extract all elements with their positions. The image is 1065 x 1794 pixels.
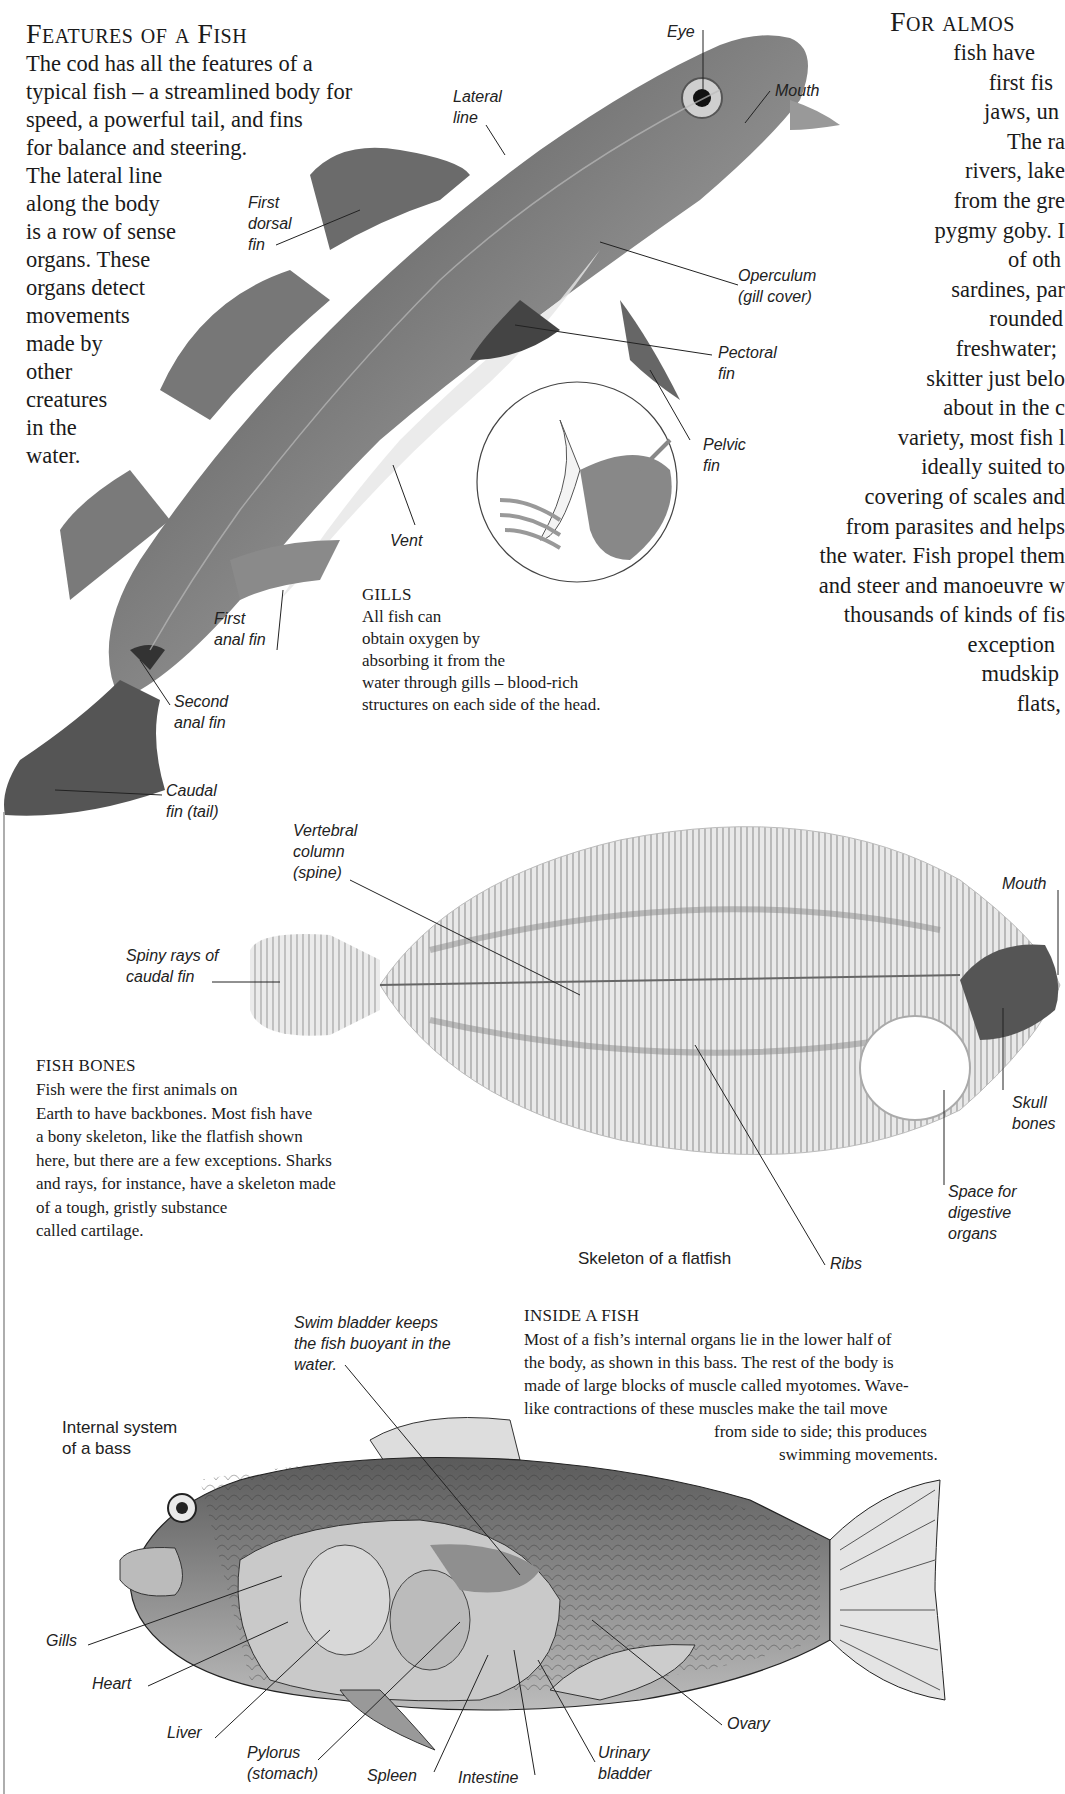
label-first-anal-fin: First anal fin <box>214 608 266 650</box>
intro-right-line: about in the c <box>625 393 1065 423</box>
label-vertebral-column: Vertebral column (spine) <box>293 820 357 883</box>
features-line: other <box>26 358 352 386</box>
intro-right-line: jaws, un <box>625 97 1065 127</box>
gills-heading: Gills <box>362 584 412 606</box>
label-lateral-line: Lateral line <box>453 86 502 128</box>
intro-right-line: covering of scales and <box>625 482 1065 512</box>
features-line: creatures <box>26 386 352 414</box>
label-pylorus: Pylorus (stomach) <box>247 1742 318 1784</box>
label-urinary-bladder: Urinary bladder <box>598 1742 651 1784</box>
inside-fish-line: like contractions of these muscles make … <box>524 1397 938 1420</box>
label-liver: Liver <box>167 1722 202 1743</box>
fish-bones-line: Fish were the first animals on <box>36 1078 336 1102</box>
features-line: water. <box>26 442 352 470</box>
label-gills: Gills <box>46 1630 77 1651</box>
gills-line: water through gills – blood-rich <box>362 672 600 694</box>
bass-illustration <box>120 1418 945 1751</box>
label-vent: Vent <box>390 530 422 551</box>
flatfish-skeleton-illustration <box>250 827 1060 1155</box>
label-spiny-rays: Spiny rays of caudal fin <box>126 945 218 987</box>
fish-bones-line: a bony skeleton, like the flatfish shown <box>36 1125 336 1149</box>
fish-bones-heading: Fish Bones <box>36 1055 136 1077</box>
fish-bones-line: Earth to have backbones. Most fish have <box>36 1102 336 1126</box>
label-skull-bones: Skull bones <box>1012 1092 1056 1134</box>
features-intro: The cod has all the features of a typica… <box>26 50 352 470</box>
label-second-anal-fin: Second anal fin <box>174 691 228 733</box>
intro-right-line: pygmy goby. I <box>625 216 1065 246</box>
features-line: in the <box>26 414 352 442</box>
gills-line: obtain oxygen by <box>362 628 600 650</box>
intro-right-heading: For almos <box>890 8 1015 36</box>
fish-bones-line: of a tough, gristly substance <box>36 1196 336 1220</box>
intro-right-line: the water. Fish propel them <box>625 541 1065 571</box>
features-line: along the body <box>26 190 352 218</box>
flatfish-caption: Skeleton of a flatfish <box>578 1248 731 1269</box>
features-line: organs. These <box>26 246 352 274</box>
inside-fish-heading: Inside a Fish <box>524 1305 639 1327</box>
intro-right-line: rounded <box>625 304 1065 334</box>
intro-right-line: ideally suited to <box>625 452 1065 482</box>
label-digestive-space: Space for digestive organs <box>948 1181 1016 1244</box>
label-caudal-fin: Caudal fin (tail) <box>166 780 218 822</box>
label-flatfish-mouth: Mouth <box>1002 873 1046 894</box>
features-line: movements <box>26 302 352 330</box>
inside-fish-line: from side to side; this produces <box>524 1420 938 1443</box>
intro-right-line: first fis <box>625 68 1065 98</box>
intro-right-line: freshwater; <box>625 334 1065 364</box>
intro-right-line: sardines, par <box>625 275 1065 305</box>
features-line: The cod has all the features of a <box>26 50 352 78</box>
fish-bones-line: called cartilage. <box>36 1219 336 1243</box>
intro-right-line: from the gre <box>625 186 1065 216</box>
intro-right-line: flats, <box>625 689 1065 719</box>
inside-fish-line: Most of a fish’s internal organs lie in … <box>524 1328 938 1351</box>
features-line: is a row of sense <box>26 218 352 246</box>
intro-right-line: rivers, lake <box>625 156 1065 186</box>
features-heading: Features of a Fish <box>26 20 247 48</box>
intro-right-line: mudskip <box>625 659 1065 689</box>
fish-bones-body: Fish were the first animals on Earth to … <box>36 1078 336 1243</box>
label-ribs: Ribs <box>830 1253 862 1274</box>
features-line: speed, a powerful tail, and fins <box>26 106 352 134</box>
features-line: organs detect <box>26 274 352 302</box>
intro-right-body: fish have first fis jaws, un The ra rive… <box>625 38 1065 719</box>
intro-right-line: skitter just belo <box>625 364 1065 394</box>
intro-right-line: and steer and manoeuvre w <box>625 571 1065 601</box>
intro-right-line: variety, most fish l <box>625 423 1065 453</box>
intro-right-line: of oth <box>625 245 1065 275</box>
gills-line: structures on each side of the head. <box>362 694 600 716</box>
intro-right-line: thousands of kinds of fis <box>625 600 1065 630</box>
inside-fish-line: made of large blocks of muscle called my… <box>524 1374 938 1397</box>
gills-line: All fish can <box>362 606 600 628</box>
gills-body: All fish can obtain oxygen by absorbing … <box>362 606 600 716</box>
fish-bones-line: and rays, for instance, have a skeleton … <box>36 1172 336 1196</box>
label-heart: Heart <box>92 1673 131 1694</box>
inside-fish-body: Most of a fish’s internal organs lie in … <box>524 1328 938 1466</box>
intro-right-line: exception <box>625 630 1065 660</box>
intro-right-line: The ra <box>625 127 1065 157</box>
label-ovary: Ovary <box>727 1713 770 1734</box>
inside-fish-line: the body, as shown in this bass. The res… <box>524 1351 938 1374</box>
features-line: The lateral line <box>26 162 352 190</box>
bass-caption: Internal system of a bass <box>62 1417 177 1459</box>
inside-fish-line: swimming movements. <box>524 1443 938 1466</box>
intro-right-line: from parasites and helps <box>625 512 1065 542</box>
fish-bones-line: here, but there are a few exceptions. Sh… <box>36 1149 336 1173</box>
features-line: made by <box>26 330 352 358</box>
label-spleen: Spleen <box>367 1765 417 1786</box>
label-first-dorsal-fin: First dorsal fin <box>248 192 292 255</box>
features-line: typical fish – a streamlined body for <box>26 78 352 106</box>
label-intestine: Intestine <box>458 1767 518 1788</box>
label-swim-bladder: Swim bladder keeps the fish buoyant in t… <box>294 1312 451 1375</box>
intro-right-line: fish have <box>625 38 1065 68</box>
features-line: for balance and steering. <box>26 134 352 162</box>
gills-line: absorbing it from the <box>362 650 600 672</box>
